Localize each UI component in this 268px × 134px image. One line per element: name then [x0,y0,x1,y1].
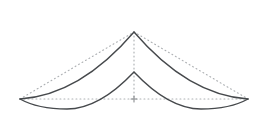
base-center-cross-mark [131,96,137,102]
dotted-triangle-right-side [134,32,248,99]
dotted-triangle-left-side [20,32,134,99]
diagram-canvas [0,0,268,134]
geometry-figure [0,0,268,134]
inner-gull-wing-curve [20,72,248,109]
